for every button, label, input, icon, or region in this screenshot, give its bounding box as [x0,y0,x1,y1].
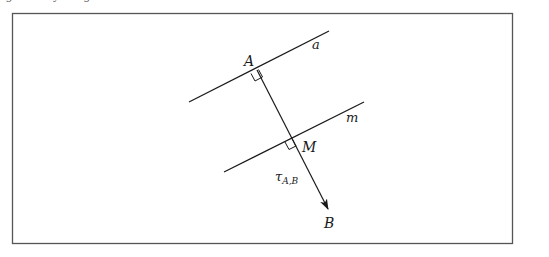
point-m-label: M [301,139,317,155]
vector-label: τA,B [275,169,299,186]
point-a-label: A [242,53,254,69]
line-a [189,31,329,102]
translation-diagram: a m A M B τA,B [0,0,549,257]
right-angle-marker-a [251,70,263,82]
point-b-label: B [323,215,334,231]
line-m-label: m [346,110,358,125]
vector-label-subscript: A,B [281,176,298,186]
line-a-label: a [312,37,320,52]
line-m [224,102,364,172]
figure-frame [13,14,513,244]
